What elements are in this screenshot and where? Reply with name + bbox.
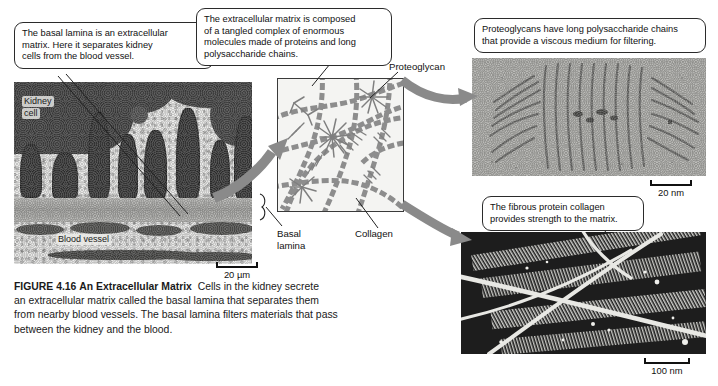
callout-collagen-line2: provides strength to the matrix. xyxy=(490,214,636,226)
collagen-micrograph-svg xyxy=(461,232,706,354)
callout-basal-lamina: The basal lamina is an extracellular mat… xyxy=(14,22,214,69)
scale-bar-collagen-micrograph: 100 nm xyxy=(644,358,690,377)
collagen-micrograph xyxy=(461,232,706,354)
caption-line-1: FIGURE 4.16 An Extracellular Matrix Cell… xyxy=(14,280,370,294)
proteoglycan-micrograph xyxy=(472,58,706,176)
kidney-cell-label-line1: Kidney xyxy=(22,96,54,107)
caption-line-2: an extracellular matrix called the basal… xyxy=(14,294,370,308)
callout-ecm-line3: molecules made of proteins and long xyxy=(204,37,384,49)
scale-bar-left-micrograph: 20 µm xyxy=(216,262,258,281)
scale-bar-collagen-label: 100 nm xyxy=(644,365,690,377)
figure-root: Kidney cell Blood vessel 20 µm xyxy=(0,0,718,386)
callout-ecm-pointer xyxy=(296,64,336,88)
basal-lamina-label-line1: Basal xyxy=(277,228,301,239)
callout-proteoglycans: Proteoglycans have long polysaccharide c… xyxy=(474,18,706,53)
caption-line-4: between the kidney and the blood. xyxy=(14,323,370,337)
scale-bar-proteoglycan-label: 20 nm xyxy=(650,187,692,199)
proteoglycan-leader-line xyxy=(360,70,400,100)
caption-figure-title: An Extracellular Matrix xyxy=(79,281,192,292)
callout-basal-lamina-pointer xyxy=(52,74,212,224)
scale-bar-proteoglycan-micrograph: 20 nm xyxy=(650,180,692,199)
caption-line1-tail: Cells in the kidney secrete xyxy=(198,281,319,292)
callout-proteoglycans-line1: Proteoglycans have long polysaccharide c… xyxy=(482,24,698,36)
caption-figure-number: FIGURE 4.16 xyxy=(14,281,76,292)
callout-collagen: The fibrous protein collagen provides st… xyxy=(482,196,644,231)
arrow-diagram-to-collagen xyxy=(400,196,478,248)
basal-lamina-bracket xyxy=(258,192,290,232)
collagen-label: Collagen xyxy=(355,228,393,239)
callout-ecm-line1: The extracellular matrix is composed xyxy=(204,14,384,26)
callout-ecm-line2: of a tangled complex of enormous xyxy=(204,26,384,38)
proteoglycan-label: Proteoglycan xyxy=(389,61,445,72)
callout-basal-lamina-line2: matrix. Here it separates kidney xyxy=(22,40,206,52)
blood-vessel-label: Blood vessel xyxy=(56,234,111,245)
basal-lamina-label-line2: lamina xyxy=(277,240,305,251)
callout-collagen-line1: The fibrous protein collagen xyxy=(490,202,636,214)
callout-basal-lamina-line3: cells from the blood vessel. xyxy=(22,51,206,63)
collagen-leader-line xyxy=(352,196,382,230)
figure-caption: FIGURE 4.16 An Extracellular Matrix Cell… xyxy=(14,280,370,337)
arrow-diagram-to-proteoglycan xyxy=(400,66,480,114)
callout-ecm-composition: The extracellular matrix is composed of … xyxy=(196,8,392,66)
kidney-cell-label-line2: cell xyxy=(22,108,40,119)
proteoglycan-micrograph-svg xyxy=(472,58,706,176)
callout-proteoglycans-line2: that provide a viscous medium for filter… xyxy=(482,36,698,48)
callout-basal-lamina-line1: The basal lamina is an extracellular xyxy=(22,28,206,40)
callout-ecm-line4: polysaccharide chains. xyxy=(204,49,384,61)
caption-line-3: from nearby blood vessels. The basal lam… xyxy=(14,308,370,322)
